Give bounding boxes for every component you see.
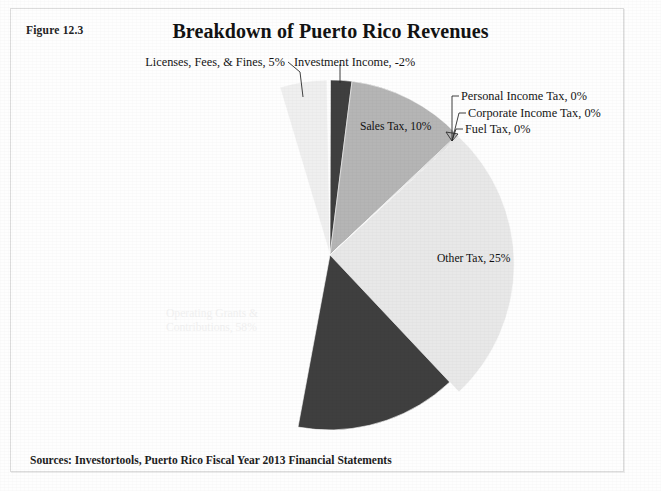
label-fuel-tax: Fuel Tax, 0% — [465, 122, 531, 136]
label-investment-income: Investment Income, -2% — [294, 55, 415, 69]
label-corporate-income-tax: Corporate Income Tax, 0% — [468, 106, 601, 120]
pie-slice-licenses-fees-fines[interactable] — [280, 80, 330, 255]
document-page: Figure 12.3 Breakdown of Puerto Rico Rev… — [0, 0, 661, 491]
sources-note: Sources: Investortools, Puerto Rico Fisc… — [30, 454, 392, 466]
label-sales-tax: Sales Tax, 10% — [360, 120, 432, 133]
label-licenses-fees-fines: Licenses, Fees, & Fines, 5% — [145, 55, 285, 69]
pie-chart: Licenses, Fees, & Fines, 5% Investment I… — [0, 0, 661, 491]
label-other-tax: Other Tax, 25% — [437, 252, 511, 265]
label-personal-income-tax: Personal Income Tax, 0% — [461, 89, 587, 103]
label-operating-grants-line1: Operating Grants & — [166, 307, 258, 320]
label-operating-grants-line2: Contributions, 58% — [166, 321, 257, 334]
